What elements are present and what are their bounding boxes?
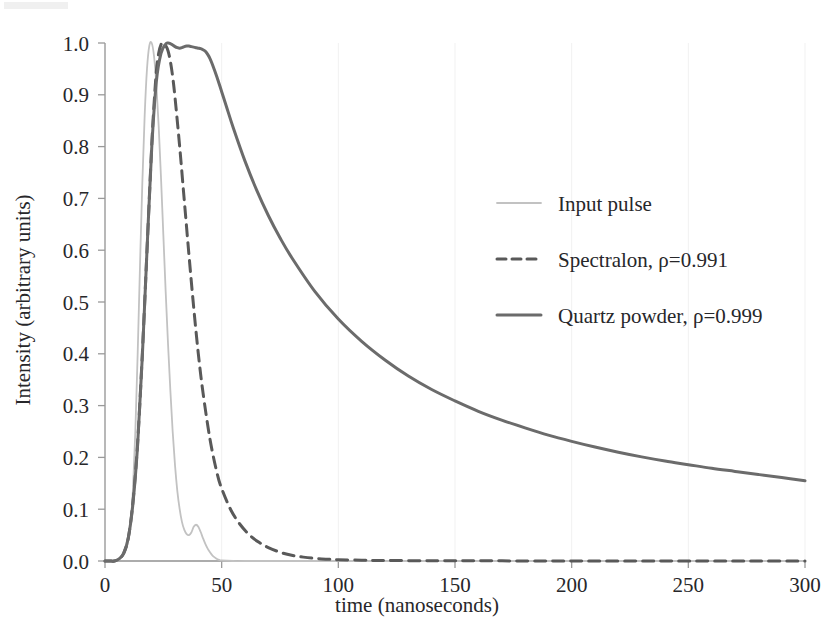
gridlines-group: [222, 43, 805, 561]
y-axis-tick-labels: 0.00.10.20.30.40.50.60.70.80.91.0: [63, 32, 90, 574]
x-tick-label-200: 200: [556, 573, 588, 597]
x-tick-label-50: 50: [211, 573, 232, 597]
y-tick-label-0.0: 0.0: [63, 550, 89, 574]
legend-label-1: Spectralon, ρ=0.991: [558, 248, 728, 272]
chart-legend: Input pulseSpectralon, ρ=0.991Quartz pow…: [497, 192, 763, 328]
x-axis-title: time (nanoseconds): [335, 593, 499, 617]
y-tick-label-0.2: 0.2: [63, 446, 89, 470]
figure-container: 0.00.10.20.30.40.50.60.70.80.91.0 050100…: [0, 0, 835, 641]
y-tick-label-0.9: 0.9: [63, 83, 89, 107]
y-tick-label-0.3: 0.3: [63, 394, 89, 418]
y-tick-label-0.6: 0.6: [63, 239, 89, 263]
y-tick-label-0.5: 0.5: [63, 291, 89, 315]
legend-label-2: Quartz powder, ρ=0.999: [558, 304, 763, 328]
x-tick-label-250: 250: [673, 573, 705, 597]
y-tick-label-0.7: 0.7: [63, 187, 89, 211]
x-tick-label-300: 300: [789, 573, 821, 597]
x-tick-label-0: 0: [100, 573, 111, 597]
y-tick-label-0.4: 0.4: [63, 342, 90, 366]
y-axis-title: Intensity (arbitrary units): [11, 194, 35, 405]
y-axis-ticks: [98, 43, 105, 561]
y-tick-label-1.0: 1.0: [63, 32, 89, 56]
y-tick-label-0.1: 0.1: [63, 498, 89, 522]
y-tick-label-0.8: 0.8: [63, 135, 89, 159]
line-chart: 0.00.10.20.30.40.50.60.70.80.91.0 050100…: [0, 0, 835, 641]
legend-label-0: Input pulse: [558, 192, 652, 216]
